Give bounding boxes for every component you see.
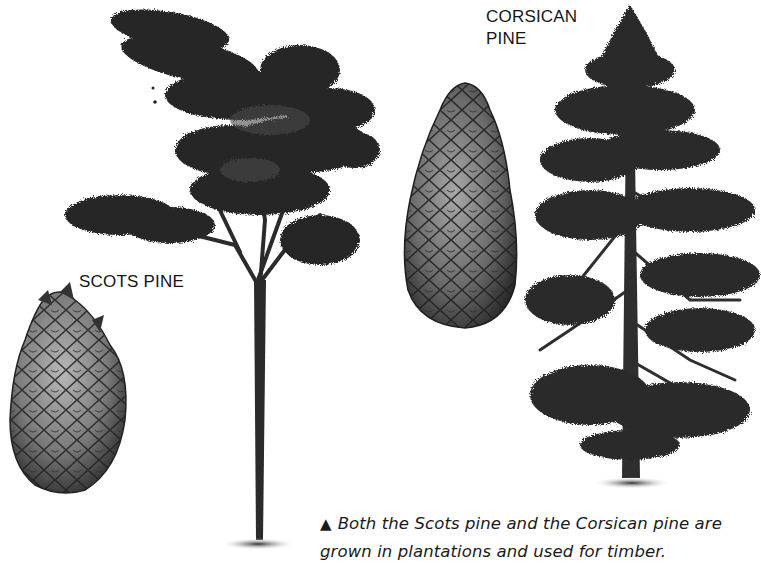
corsican-pine-label: CORSICAN PINE — [486, 6, 577, 50]
figure-caption: ▲Both the Scots pine and the Corsican pi… — [320, 510, 760, 566]
corsican-pine-tree — [525, 5, 760, 489]
caption-line2: grown in plantations and used for timber… — [320, 538, 760, 566]
corsican-pine-cone — [404, 83, 516, 328]
triangle-marker-icon: ▲ — [320, 515, 332, 533]
corsican-pine-label-line2: PINE — [486, 28, 577, 50]
corsican-pine-label-line1: CORSICAN — [486, 6, 577, 28]
caption-line1-text: Both the Scots pine and the Corsican pin… — [338, 514, 722, 533]
scots-pine-label: SCOTS PINE — [79, 271, 184, 293]
scots-pine-cone — [10, 282, 126, 493]
caption-line1: ▲Both the Scots pine and the Corsican pi… — [320, 510, 760, 538]
